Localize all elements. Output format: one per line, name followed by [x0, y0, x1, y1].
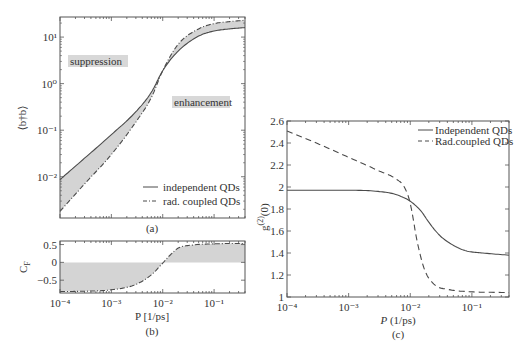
y-tick-label: 2 [279, 181, 285, 193]
enhancement-label: enhancement [174, 96, 232, 108]
panel-b-x-axis-label: P [1/ps] [135, 310, 169, 322]
legend-a-solid-label: independent QDs [163, 181, 240, 193]
panel-a-legend: independent QDs rad. coupled QDs [143, 181, 240, 207]
x-tick-label: 10⁻¹ [462, 301, 482, 313]
y-tick-label: 10⁻¹ [37, 124, 57, 136]
y-tick-label: 0 [52, 256, 58, 268]
y-tick-label: −0.5 [37, 274, 57, 286]
x-tick-label: 10⁻² [400, 301, 421, 313]
panel-a-y-tick-labels: 10¹10⁰10⁻¹10⁻² [37, 31, 58, 183]
legend-c-dashed-label: Rad.coupled QDs [435, 135, 513, 147]
panel-c-x-tick-labels: 10⁻⁴10⁻³10⁻²10⁻¹ [277, 301, 482, 313]
y-tick-label: 2.2 [270, 159, 284, 171]
x-tick-label: 10⁻³ [101, 297, 122, 309]
y-tick-label: 2.6 [270, 115, 284, 127]
panel-b-y-axis-label: CF [17, 261, 32, 273]
x-tick-label: 10⁻¹ [204, 297, 224, 309]
panel-c-y-axis-label: g(2)(0) [256, 203, 271, 231]
x-tick-label: 10⁻⁴ [277, 301, 298, 313]
panel-b-x-tick-labels: 10⁻⁴10⁻³10⁻²10⁻¹ [50, 297, 224, 309]
x-tick-label: 10⁻⁴ [50, 297, 71, 309]
panel-c-axes-frame [287, 121, 509, 297]
x-tick-label: 10⁻³ [339, 301, 360, 313]
panel-c-coupled-line [287, 131, 509, 293]
x-tick-label: 10⁻² [153, 297, 174, 309]
y-tick-label: 1.2 [270, 269, 284, 281]
panel-b-chart: 0.50−0.5 10⁻⁴10⁻³10⁻²10⁻¹ P [1/ps] (b) C… [17, 239, 245, 338]
y-tick-label: 2.4 [270, 137, 284, 149]
svg-text:g(2)(0): g(2)(0) [256, 203, 271, 231]
y-tick-label: 10⁰ [42, 78, 58, 90]
panel-c-independent-line [287, 190, 509, 255]
y-tick-label: 1.6 [270, 225, 284, 237]
panel-c-legend: Independent QDs Rad.coupled QDs [418, 124, 513, 147]
panel-a-chart: 10¹10⁰10⁻¹10⁻² suppression enhancement i… [16, 17, 245, 235]
svg-text:CF: CF [17, 261, 32, 273]
y-tick-label: 1.8 [270, 203, 284, 215]
y-tick-label: 10⁻² [37, 171, 58, 183]
panel-c-label: (c) [392, 328, 405, 341]
y-tick-label: 10¹ [43, 31, 57, 43]
panel-c-ticks [287, 121, 509, 297]
panel-b-shaded-region [60, 244, 245, 292]
suppression-label: suppression [70, 55, 122, 67]
panel-a-y-axis-label: ⟨b†b⟩ [16, 105, 28, 130]
legend-a-dashed-label: rad. coupled QDs [163, 195, 240, 207]
y-tick-label: 0.5 [43, 239, 57, 251]
panel-a-label: (a) [146, 222, 159, 235]
panel-b-y-tick-labels: 0.50−0.5 [37, 239, 57, 287]
y-tick-label: 1.4 [270, 247, 284, 259]
figure: 10¹10⁰10⁻¹10⁻² suppression enhancement i… [0, 0, 530, 355]
panel-c-x-axis-label: P (1/ps) [379, 314, 415, 327]
panel-c-chart: 2.62.42.221.81.61.41.21 10⁻⁴10⁻³10⁻²10⁻¹… [256, 115, 513, 341]
panel-b-label: (b) [146, 325, 159, 338]
panel-c-y-tick-labels: 2.62.42.221.81.61.41.21 [270, 115, 284, 303]
